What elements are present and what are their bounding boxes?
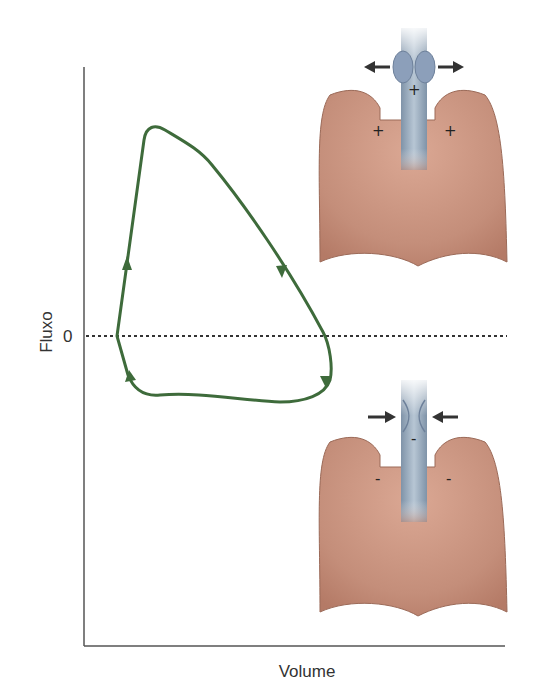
top-right-lung-sign: + bbox=[444, 124, 457, 139]
arrow-inward-left-icon bbox=[368, 411, 396, 423]
y-axis-label: Fluxo bbox=[37, 307, 57, 357]
arrow-inward-right-icon bbox=[432, 411, 458, 423]
top-lung-illustration bbox=[319, 28, 507, 266]
top-left-lung-sign: + bbox=[372, 124, 385, 139]
zero-tick-label: 0 bbox=[63, 327, 72, 347]
arrow-outward-right-icon bbox=[438, 61, 464, 73]
loop-arrow-down-icon bbox=[276, 265, 287, 278]
flow-volume-diagram: Fluxo 0 Volume + + + - - - bbox=[0, 0, 534, 695]
bottom-left-lung-sign: - bbox=[375, 472, 380, 487]
bottom-trachea-sign: - bbox=[411, 432, 416, 447]
bottom-right-lung-sign: - bbox=[446, 472, 451, 487]
x-axis-label: Volume bbox=[0, 662, 534, 682]
flow-volume-loop bbox=[117, 127, 331, 402]
airway-dilation-left bbox=[393, 51, 413, 83]
top-trachea-sign: + bbox=[408, 83, 421, 98]
loop-arrow-up-icon bbox=[122, 256, 132, 270]
bottom-lung-illustration bbox=[319, 380, 507, 616]
arrow-outward-left-icon bbox=[364, 61, 390, 73]
airway-dilation-right bbox=[415, 51, 435, 83]
diagram-canvas bbox=[0, 0, 534, 695]
